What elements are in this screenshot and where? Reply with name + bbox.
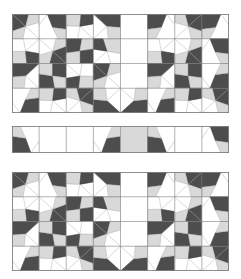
tile-cell — [12, 88, 39, 113]
light-blade — [66, 51, 80, 63]
tile-cell — [148, 222, 175, 247]
cell-base — [121, 222, 148, 247]
white-wedge — [12, 39, 26, 52]
light-wedge — [148, 76, 162, 88]
light-blade — [66, 209, 80, 221]
tile-cell — [93, 222, 120, 247]
light-fan — [66, 172, 81, 184]
tile-cell — [148, 14, 175, 39]
tile-cell — [66, 88, 93, 113]
tile-cell — [93, 39, 120, 64]
tile-cell — [121, 64, 148, 89]
tile-cell — [121, 197, 148, 222]
tile-cell — [121, 222, 148, 247]
cell-base — [175, 126, 202, 153]
tile-cell — [202, 246, 229, 271]
tile-cell — [148, 39, 175, 64]
light-blade — [39, 64, 53, 76]
white-wedge — [148, 39, 162, 52]
white-wedge — [66, 26, 80, 39]
light-fan — [12, 209, 27, 221]
light-blade — [188, 234, 202, 246]
tile-cell — [66, 222, 93, 247]
dark-wedge — [188, 88, 202, 100]
dark-blade — [80, 49, 94, 63]
cell-base — [121, 64, 148, 89]
dark-wedge — [53, 88, 67, 100]
light-wedge — [93, 88, 107, 100]
light-blade — [175, 64, 189, 76]
tile-cell — [39, 88, 66, 113]
tile-cell — [12, 197, 39, 222]
white-wedge — [80, 64, 94, 77]
white-wedge — [80, 222, 94, 235]
tile-cell — [39, 197, 66, 222]
light-blade — [53, 76, 67, 88]
tile-cell — [12, 64, 39, 89]
dark-wedge — [26, 209, 40, 221]
light-blade — [175, 222, 189, 234]
cell-base — [121, 172, 148, 197]
tile-cell — [175, 172, 202, 197]
light-wedge — [107, 26, 121, 38]
tile-cell — [66, 39, 93, 64]
dark-wedge — [53, 246, 67, 258]
tile-cell — [93, 88, 120, 113]
white-wedge — [148, 197, 162, 210]
tile-cell — [202, 126, 229, 153]
tile-cell — [66, 172, 93, 197]
tile-cell — [175, 88, 202, 113]
tile-cell — [175, 197, 202, 222]
tile-cell — [66, 14, 93, 39]
white-wedge — [66, 184, 80, 197]
cell-base — [39, 126, 66, 153]
tile-cell — [93, 246, 120, 271]
light-wedge — [12, 234, 26, 246]
tile-cell — [12, 39, 39, 64]
light-fan — [148, 209, 163, 221]
tile-cell — [39, 39, 66, 64]
tile-cell — [148, 197, 175, 222]
dark-blade — [53, 64, 67, 78]
tile-cell — [175, 222, 202, 247]
tile-cell — [202, 222, 229, 247]
dark-wedge — [188, 246, 202, 258]
dark-blade — [80, 207, 94, 221]
tile-cell — [93, 172, 120, 197]
light-fan — [78, 76, 93, 88]
tile-cell — [121, 246, 148, 271]
tile-cell — [202, 197, 229, 222]
light-wedge — [148, 234, 162, 246]
light-blade — [188, 76, 202, 88]
tile-cell — [12, 126, 39, 153]
tile-cell — [12, 246, 39, 271]
light-fan — [66, 14, 81, 26]
tile-cell — [121, 126, 148, 153]
tile-cell — [12, 14, 39, 39]
light-fan — [148, 51, 163, 63]
tile-cell — [93, 197, 120, 222]
dark-wedge — [66, 234, 80, 246]
tile-cell — [93, 126, 120, 153]
tile-cell — [12, 172, 39, 197]
light-fan — [12, 51, 27, 63]
tile-cell — [66, 197, 93, 222]
light-fan — [78, 234, 93, 246]
cell-base — [121, 39, 148, 64]
tile-cell — [66, 64, 93, 89]
light-wedge — [107, 184, 121, 196]
tile-cell — [121, 88, 148, 113]
tile-cell — [39, 172, 66, 197]
cell-base — [121, 14, 148, 39]
tile-cell — [39, 14, 66, 39]
tile-cell — [66, 126, 93, 153]
light-blade — [39, 222, 53, 234]
dark-wedge — [161, 209, 175, 221]
tiling-figure — [0, 0, 241, 279]
dark-wedge — [161, 51, 175, 63]
tile-cell — [148, 64, 175, 89]
light-fan — [39, 246, 54, 258]
tile-cell — [39, 222, 66, 247]
bottom-panel-canvas — [12, 172, 229, 271]
dark-blade — [188, 64, 202, 78]
